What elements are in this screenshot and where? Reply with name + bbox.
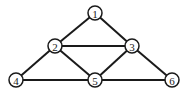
edges-group: [16, 13, 172, 80]
edge-2-4: [16, 46, 55, 80]
edge-1-2: [55, 13, 95, 46]
node-label: 1: [92, 8, 98, 20]
node-4: 4: [9, 73, 23, 87]
node-label: 2: [52, 41, 58, 53]
node-label: 3: [129, 41, 135, 53]
edge-3-6: [132, 46, 172, 80]
node-1: 1: [88, 6, 102, 20]
node-5: 5: [88, 73, 102, 87]
node-label: 4: [13, 75, 19, 87]
node-label: 5: [92, 75, 98, 87]
node-6: 6: [165, 73, 179, 87]
node-3: 3: [125, 39, 139, 53]
edge-2-5: [55, 46, 95, 80]
node-2: 2: [48, 39, 62, 53]
graph-diagram: 123456: [0, 0, 189, 95]
node-label: 6: [169, 75, 175, 87]
